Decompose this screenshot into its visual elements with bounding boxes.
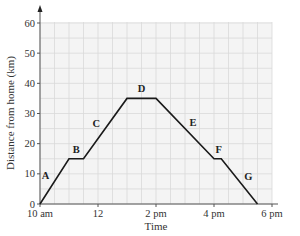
x-tick-label: 10 am [27, 208, 53, 219]
segment-label-a: A [42, 170, 50, 181]
y-tick-label: 10 [25, 168, 36, 179]
segment-label-f: F [215, 144, 221, 155]
y-axis-label: Distance from home (km) [4, 56, 17, 170]
x-tick-label: 12 [93, 208, 104, 219]
x-axis-label: Time [145, 220, 168, 232]
segment-label-b: B [73, 144, 80, 155]
segment-label-e: E [189, 117, 196, 128]
y-tick-label: 50 [25, 48, 36, 59]
distance-time-chart: 0102030405060 10 am122 pm4 pm6 pm ABCDEF… [0, 0, 300, 236]
y-tick-label: 40 [25, 78, 36, 89]
y-tick-label: 30 [25, 108, 36, 119]
segment-label-g: G [244, 171, 252, 182]
x-tick-label: 6 pm [261, 208, 282, 219]
x-tick-label: 2 pm [145, 208, 166, 219]
x-tick-label: 4 pm [203, 208, 224, 219]
y-tick-label: 20 [25, 138, 36, 149]
segment-label-c: C [92, 118, 100, 129]
x-axis-ticks: 10 am122 pm4 pm6 pm [27, 204, 283, 219]
y-axis-ticks: 0102030405060 [25, 18, 41, 210]
segment-label-d: D [138, 83, 146, 94]
y-tick-label: 60 [25, 18, 36, 29]
